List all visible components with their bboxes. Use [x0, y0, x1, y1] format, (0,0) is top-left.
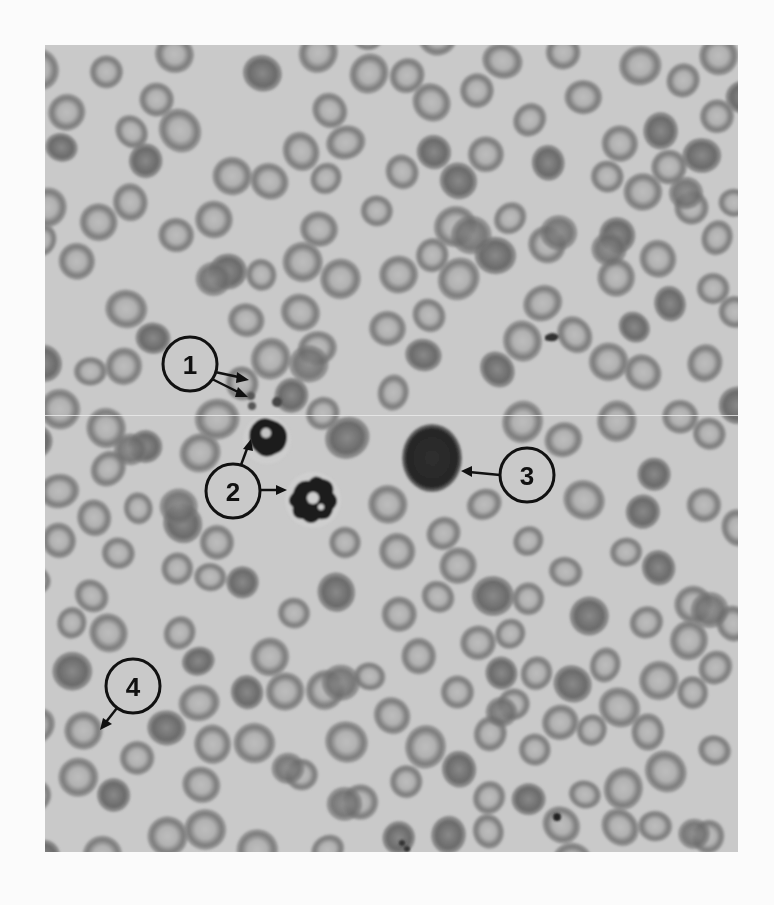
neutrophil-lower — [285, 472, 341, 528]
red-blood-cell — [73, 357, 107, 387]
red-blood-cell-overlap — [195, 262, 231, 296]
red-blood-cell — [682, 138, 722, 174]
red-blood-cell — [224, 299, 268, 341]
red-blood-cell — [98, 533, 139, 573]
red-blood-cell-overlap — [678, 819, 710, 850]
red-blood-cell — [469, 573, 516, 618]
red-blood-cell — [405, 291, 452, 339]
red-blood-cell — [435, 670, 479, 714]
red-blood-cell — [623, 599, 670, 645]
red-blood-cell-overlap — [114, 433, 148, 465]
red-blood-cell — [45, 470, 82, 511]
red-blood-cell-overlap — [591, 232, 627, 266]
red-blood-cell — [45, 517, 81, 563]
platelet — [272, 397, 282, 407]
red-blood-cell-overlap — [327, 787, 363, 821]
red-blood-cell — [243, 256, 280, 294]
red-blood-cell — [481, 652, 522, 694]
red-blood-cell — [506, 96, 554, 144]
red-blood-cell — [495, 394, 549, 450]
red-blood-cell — [45, 338, 69, 389]
red-blood-cell — [226, 671, 267, 714]
red-blood-cell — [92, 773, 135, 816]
red-blood-cell — [389, 764, 423, 798]
red-blood-cell — [529, 143, 567, 183]
red-blood-cell-overlap — [322, 664, 361, 701]
red-blood-cell — [305, 828, 350, 852]
red-blood-cell — [57, 704, 111, 758]
red-blood-cell — [342, 46, 397, 102]
red-blood-cell — [376, 253, 420, 297]
red-blood-cell — [55, 754, 102, 800]
red-blood-cell — [45, 182, 72, 232]
red-blood-cell — [456, 621, 500, 664]
red-blood-cell — [507, 519, 551, 562]
red-blood-cell — [223, 563, 262, 602]
red-blood-cell — [716, 186, 738, 219]
red-blood-cell — [515, 651, 557, 695]
red-blood-cell — [429, 814, 468, 852]
red-blood-cell — [377, 816, 420, 852]
red-blood-cell — [564, 591, 614, 641]
red-blood-cell — [643, 112, 678, 150]
red-blood-cell — [291, 45, 346, 81]
red-blood-cell — [564, 79, 603, 115]
red-blood-cell — [45, 773, 58, 820]
neutrophil-upper — [243, 416, 291, 464]
platelet-clump — [545, 333, 559, 341]
platelet — [399, 840, 405, 846]
red-blood-cell — [401, 638, 436, 675]
red-blood-cell — [660, 57, 707, 105]
red-blood-cell — [117, 738, 158, 779]
red-blood-cell — [632, 452, 676, 496]
red-blood-cell — [376, 530, 419, 573]
red-blood-cell — [73, 495, 116, 540]
red-blood-cell — [176, 760, 227, 809]
red-blood-cell — [274, 286, 327, 338]
red-blood-cell — [717, 505, 738, 550]
red-blood-cell — [636, 809, 673, 843]
red-blood-cell — [416, 45, 460, 58]
red-blood-cell — [696, 215, 738, 260]
red-blood-cell — [155, 215, 196, 255]
red-blood-cell — [54, 239, 99, 284]
red-blood-cell — [231, 720, 278, 766]
red-blood-cell — [357, 191, 397, 230]
red-blood-cell — [367, 308, 409, 348]
platelet — [553, 813, 561, 821]
red-blood-cell — [683, 484, 725, 526]
red-blood-cell — [682, 339, 727, 386]
red-blood-cell — [634, 234, 682, 283]
red-blood-cell — [599, 763, 647, 814]
red-blood-cell — [158, 549, 196, 588]
red-blood-cell — [45, 380, 89, 438]
callout-4-label: 4 — [126, 672, 141, 702]
blood-smear-photo: 1 2 3 — [45, 45, 738, 852]
red-blood-cell — [539, 45, 587, 76]
red-blood-cell — [192, 722, 234, 766]
red-blood-cell — [511, 581, 545, 616]
platelet — [248, 402, 256, 410]
red-blood-cell — [619, 487, 668, 536]
red-blood-cell — [631, 713, 665, 751]
red-blood-cell-overlap — [690, 592, 728, 629]
red-blood-cell-overlap — [486, 697, 518, 727]
red-blood-cell — [374, 371, 412, 413]
red-blood-cell — [380, 594, 419, 634]
red-blood-cell — [45, 836, 64, 852]
red-blood-cell — [650, 282, 689, 324]
red-blood-cell — [612, 305, 656, 349]
red-blood-cell — [100, 342, 148, 391]
red-blood-cell — [238, 49, 288, 97]
red-blood-cell-overlap — [540, 215, 577, 251]
red-blood-cell-overlap — [451, 216, 492, 255]
red-blood-cell — [208, 153, 256, 200]
red-blood-cell — [45, 129, 81, 165]
red-blood-cell — [693, 730, 736, 771]
red-blood-cell — [274, 594, 313, 632]
red-blood-cell — [362, 478, 414, 530]
red-blood-cell — [83, 48, 130, 95]
red-blood-cell — [556, 472, 613, 528]
red-blood-cell — [140, 809, 195, 852]
red-blood-cell — [545, 552, 587, 591]
